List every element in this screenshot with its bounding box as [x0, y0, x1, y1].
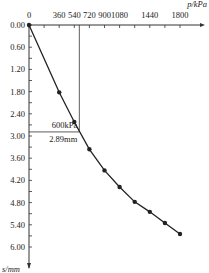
x-tick-label: 360: [53, 10, 66, 20]
data-point: [178, 232, 182, 236]
y-axis-arrow-icon: [27, 263, 31, 269]
y-tick-label: 3.00: [10, 131, 25, 141]
x-tick-label: 540: [68, 10, 81, 20]
data-point: [27, 23, 31, 27]
x-axis-arrow-icon: [200, 23, 205, 27]
y-tick-label: 1.80: [10, 87, 25, 97]
data-point: [133, 200, 137, 204]
x-tick-label: 1440: [141, 10, 158, 20]
y-tick-label: 5.40: [10, 220, 25, 230]
x-tick-label: 1080: [111, 10, 128, 20]
data-point: [148, 210, 152, 214]
x-tick-label: 900: [98, 10, 111, 20]
data-point: [87, 147, 91, 151]
data-point: [117, 185, 121, 189]
y-tick-label: 2.40: [10, 109, 25, 119]
y-tick-label: 0.00: [10, 20, 25, 30]
y-tick-label: 0.60: [10, 42, 25, 52]
y-axis-label: s/mm: [2, 264, 20, 273]
data-point: [72, 120, 76, 124]
y-tick-label: 6.00: [10, 242, 25, 252]
annotation-settlement: 2.89mm: [49, 134, 77, 144]
load-settlement-chart: 03605407209001080144018000.000.601.201.8…: [0, 0, 209, 273]
y-tick-label: 1.20: [10, 64, 25, 74]
x-tick-label: 0: [27, 10, 31, 20]
data-point: [57, 90, 61, 94]
x-tick-label: 720: [83, 10, 96, 20]
data-point: [102, 168, 106, 172]
data-point: [163, 221, 167, 225]
x-tick-label: 1800: [172, 10, 189, 20]
x-axis-label: p/kPa: [186, 0, 207, 9]
y-tick-label: 3.60: [10, 153, 25, 163]
y-tick-label: 4.20: [10, 175, 25, 185]
y-tick-label: 4.80: [10, 198, 25, 208]
